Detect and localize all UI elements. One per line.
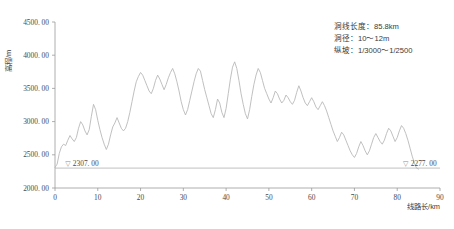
x-tick-label: 70	[351, 193, 359, 202]
y-axis-ticks: 2000. 002500. 003000. 003500. 004000. 00…	[23, 18, 55, 193]
annotation-tunnel-diameter: 洞径：10～12m	[334, 33, 389, 43]
x-tick-label: 20	[137, 193, 145, 202]
y-tick-label: 3000. 00	[23, 117, 49, 126]
x-tick-label: 30	[180, 193, 188, 202]
elevation-marker-glyph: ▽	[65, 160, 71, 168]
x-tick-label: 50	[265, 193, 273, 202]
elevation-marker-label: 2277. 00	[411, 159, 437, 168]
x-tick-label: 10	[94, 193, 102, 202]
y-axis: 2000. 002500. 003000. 003500. 004000. 00…	[4, 18, 55, 193]
y-tick-label: 4500. 00	[23, 18, 49, 27]
plot-area	[55, 62, 440, 169]
y-axis-title: 高程/m	[4, 50, 13, 72]
x-tick-label: 80	[394, 193, 402, 202]
annotation-block: 洞线长度：85.8km 洞径：10～12m 纵坡：1/3000～1/2500	[334, 21, 412, 55]
y-tick-label: 2500. 00	[23, 150, 49, 159]
annotation-longitudinal-slope: 纵坡：1/3000～1/2500	[334, 45, 412, 55]
chart-canvas: 2000. 002500. 003000. 003500. 004000. 00…	[0, 0, 454, 229]
x-tick-label: 60	[308, 193, 316, 202]
elevation-profile-chart: 2000. 002500. 003000. 003500. 004000. 00…	[0, 0, 454, 229]
elevation-marker-label: 2307. 00	[73, 159, 99, 168]
x-tick-label: 0	[53, 193, 57, 202]
y-tick-label: 3500. 00	[23, 84, 49, 93]
x-tick-label: 90	[436, 193, 444, 202]
x-axis-ticks: 0102030405060708090	[53, 188, 444, 202]
ground-elevation-line	[55, 62, 419, 169]
elevation-markers: ▽2307. 00▽2277. 00	[65, 159, 437, 169]
elevation-marker-glyph: ▽	[403, 160, 409, 168]
x-tick-label: 40	[222, 193, 230, 202]
x-axis-title: 线路长/km	[407, 202, 440, 211]
annotation-tunnel-length: 洞线长度：85.8km	[334, 21, 399, 31]
y-tick-label: 2000. 00	[23, 184, 49, 193]
x-axis: 0102030405060708090 线路长/km	[53, 188, 444, 211]
y-tick-label: 4000. 00	[23, 51, 49, 60]
